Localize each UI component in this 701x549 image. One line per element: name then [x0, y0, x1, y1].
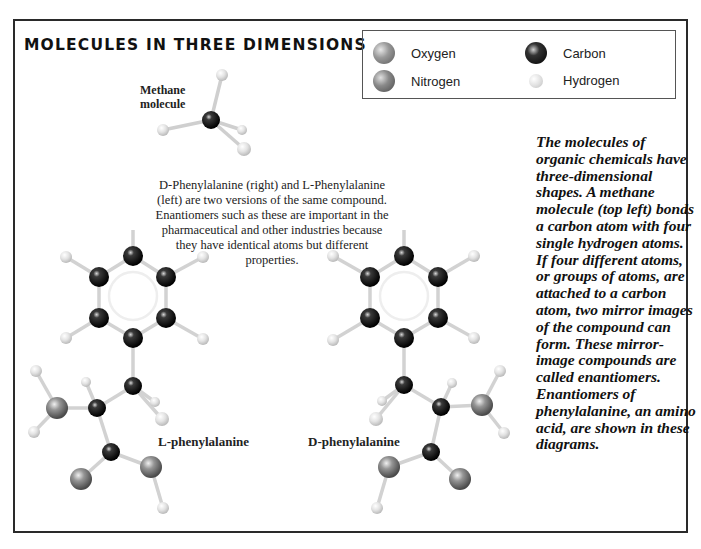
carbon-atom-icon	[202, 111, 220, 129]
methane-molecule	[163, 75, 244, 149]
l-phenylalanine-molecule	[28, 230, 209, 514]
hydrogen-atom-icon	[157, 124, 169, 136]
d-phenylalanine-molecule	[327, 230, 510, 514]
hydrogen-atom-icon	[237, 142, 251, 156]
hydrogen-atom-icon	[237, 125, 247, 135]
molecule-diagrams	[0, 0, 701, 549]
hydrogen-atom-icon	[216, 69, 228, 81]
